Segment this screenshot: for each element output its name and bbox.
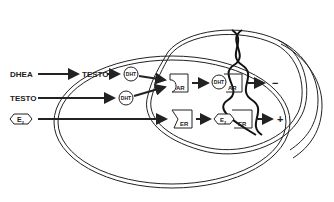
steroid-signaling-diagram: DHEA TESTO DHT TESTO DHT AR DHT AR − E2 …: [0, 0, 334, 202]
er-label: ER: [180, 121, 189, 127]
er-outcome: +: [277, 113, 283, 125]
arrow-dht1-ar: [139, 76, 165, 80]
e2-er-er-label: ER: [238, 121, 247, 127]
dht-ar-ar-label: AR: [228, 85, 237, 91]
dht-label-1: DHT: [126, 71, 136, 77]
dhea-label: DHEA: [10, 70, 33, 79]
testo-outer-label: TESTO: [10, 94, 37, 103]
ar-label: AR: [176, 85, 185, 91]
ar-outcome: −: [272, 77, 278, 89]
dht-ar-dht-label: DHT: [214, 79, 224, 85]
testo-inner-label: TESTO: [82, 70, 109, 79]
dht-label-2: DHT: [121, 95, 131, 101]
nucleus: [147, 30, 322, 158]
